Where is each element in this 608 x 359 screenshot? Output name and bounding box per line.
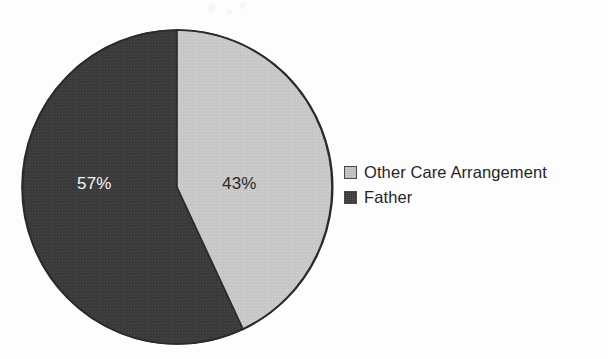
pie-chart-figure: 57% 43% Other Care Arrangement Father bbox=[0, 0, 608, 359]
chart-legend: Other Care Arrangement Father bbox=[344, 160, 606, 210]
legend-swatch-icon bbox=[344, 166, 357, 179]
slice-label-father: 57% bbox=[77, 174, 112, 194]
legend-label: Other Care Arrangement bbox=[364, 164, 547, 181]
legend-item-father: Father bbox=[344, 185, 606, 210]
legend-swatch-icon bbox=[344, 191, 357, 204]
slice-label-other-care-arrangement: 43% bbox=[222, 174, 257, 194]
legend-label: Father bbox=[364, 189, 412, 206]
legend-item-other-care-arrangement: Other Care Arrangement bbox=[344, 160, 606, 185]
